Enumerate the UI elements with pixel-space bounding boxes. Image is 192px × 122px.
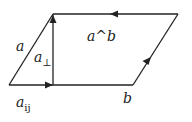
edge-right-side (133, 14, 178, 85)
arrow-right-icon (45, 82, 53, 89)
arrow-left-icon (110, 11, 118, 18)
parallelogram-diagram: a a⊥ a^b aij b (0, 0, 192, 122)
label-a-perp: a⊥ (34, 50, 52, 64)
label-wedge: a^b (87, 29, 116, 43)
arrow-up-right-icon (143, 57, 152, 65)
label-a-parallel-sub: ij (24, 102, 30, 113)
label-a-perp-sub: ⊥ (42, 57, 51, 68)
label-b: b (123, 91, 132, 105)
label-a: a (16, 39, 24, 53)
label-a-parallel: aij (16, 95, 31, 109)
